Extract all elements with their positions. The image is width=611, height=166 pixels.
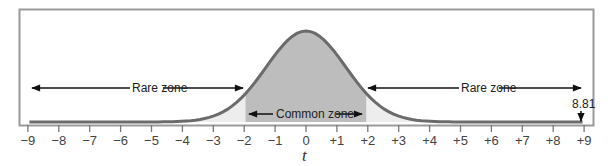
x-tick-label: −7 (82, 133, 97, 148)
observed-value-label: 8.81 (572, 97, 596, 111)
x-tick-label: +2 (360, 133, 375, 148)
x-axis-ticks: −9−8−7−6−5−4−3−2−10+1+2+3+4+5+6+7+8+9 (20, 125, 591, 148)
x-tick-label: +4 (422, 133, 437, 148)
common-zone-label: Common zone (276, 107, 354, 121)
x-tick-label: −4 (175, 133, 190, 148)
x-tick-label: +3 (391, 133, 406, 148)
x-tick-label: +6 (484, 133, 499, 148)
x-tick-label: −1 (268, 133, 283, 148)
x-tick-label: −6 (113, 133, 128, 148)
x-tick-label: −9 (20, 133, 35, 148)
x-tick-label: −2 (237, 133, 252, 148)
x-tick-label: +8 (546, 133, 561, 148)
x-tick-label: +9 (577, 133, 592, 148)
t-distribution-chart: Rare zone Common zone Rare zone 8.81 −9−… (0, 0, 611, 166)
x-tick-label: −5 (144, 133, 159, 148)
x-tick-label: −3 (206, 133, 221, 148)
rare-zone-left-label: Rare zone (132, 81, 188, 95)
x-axis-title: t (302, 146, 308, 165)
x-tick-label: −8 (51, 133, 66, 148)
x-tick-label: +5 (453, 133, 468, 148)
x-tick-label: +1 (329, 133, 344, 148)
x-tick-label: +7 (515, 133, 530, 148)
rare-zone-right-label: Rare zone (461, 81, 517, 95)
